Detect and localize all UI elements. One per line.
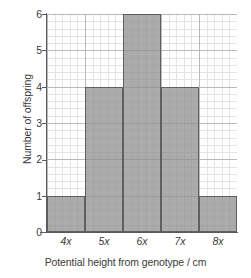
y-axis-tick-labels: 6 5 4 3 2 1 0 bbox=[26, 0, 42, 278]
bar-4x bbox=[47, 196, 85, 232]
x-axis-tick-labels: 4x5x6x7x8x bbox=[47, 235, 237, 251]
histogram-chart: Number of offspring 6 5 4 3 2 1 0 4x5x6x… bbox=[0, 0, 251, 278]
x-tick-label-7x: 7x bbox=[161, 235, 199, 249]
bar-7x bbox=[161, 87, 199, 232]
y-tick-label-5: 5 bbox=[28, 45, 42, 56]
x-tick-label-5x: 5x bbox=[85, 235, 123, 249]
y-tick-label-4: 4 bbox=[28, 82, 42, 93]
x-tick-label-4x: 4x bbox=[47, 235, 85, 249]
bars-layer bbox=[47, 14, 237, 232]
x-axis-title: Potential height from genotype / cm bbox=[0, 256, 251, 268]
y-tick-label-2: 2 bbox=[28, 154, 42, 165]
x-axis-line bbox=[40, 232, 238, 233]
bar-6x bbox=[123, 14, 161, 232]
x-tick-label-8x: 8x bbox=[199, 235, 237, 249]
y-axis-line bbox=[46, 13, 47, 233]
y-tick-label-6: 6 bbox=[28, 9, 42, 20]
bar-5x bbox=[85, 87, 123, 232]
y-tick-label-1: 1 bbox=[28, 191, 42, 202]
plot-area bbox=[47, 14, 237, 232]
bar-8x bbox=[199, 196, 237, 232]
x-tick-label-6x: 6x bbox=[123, 235, 161, 249]
y-tick-label-3: 3 bbox=[28, 118, 42, 129]
